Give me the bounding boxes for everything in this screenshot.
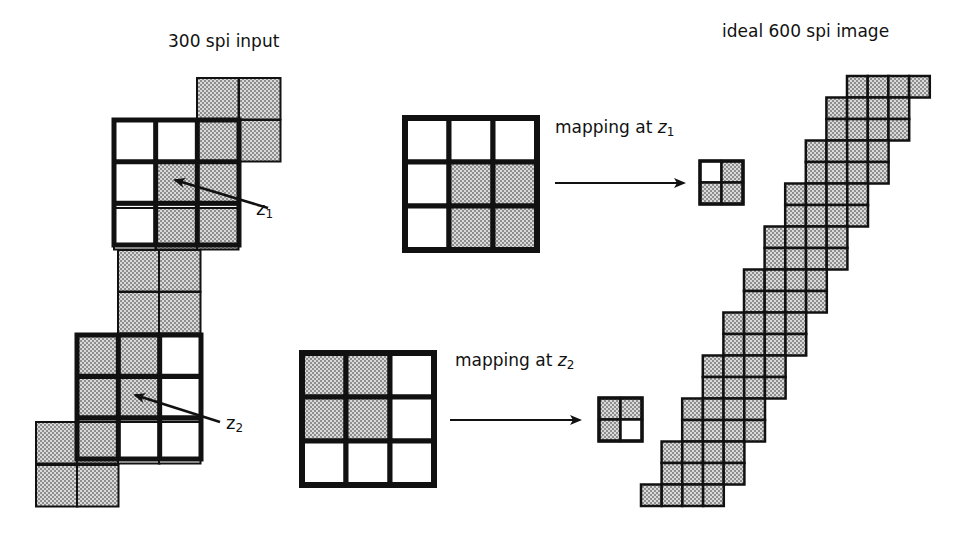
output-pixel: [765, 334, 786, 356]
output-pixel: [703, 399, 724, 421]
output-pixel: [847, 205, 868, 227]
output-pixel: [765, 270, 786, 292]
z-subscript: 1: [667, 125, 675, 139]
output-pixel: [806, 227, 827, 249]
output-pixel: [744, 420, 765, 442]
output-pixel: [703, 420, 724, 442]
output-pixel: [765, 313, 786, 335]
output-pixel: [847, 119, 868, 141]
output-pixel: [662, 463, 683, 485]
output-pixel: [847, 184, 868, 206]
output-pixel: [744, 356, 765, 378]
output-pixel: [806, 270, 827, 292]
output-pixel: [724, 399, 745, 421]
output-pixel: [806, 291, 827, 313]
mapping-z1-label: mapping at z1: [555, 117, 674, 139]
output-pixel: [703, 356, 724, 378]
output-pixel: [765, 356, 786, 378]
output-pixel: [786, 313, 807, 335]
output-title: ideal 600 spi image: [722, 21, 889, 41]
z-subscript: 2: [567, 358, 575, 372]
z-subscript: 2: [235, 421, 243, 435]
pixel-on: [159, 292, 201, 334]
output-pixel: [786, 334, 807, 356]
pixel-off: [159, 335, 201, 377]
output-pixel: [724, 356, 745, 378]
output-pixel: [682, 442, 703, 464]
pixel-on: [159, 250, 201, 292]
pixel-on: [197, 78, 239, 120]
output-pixel: [744, 291, 765, 313]
mapping-z2-text: mapping at: [455, 350, 558, 370]
output-pixel: [662, 485, 683, 507]
output-pixel: [868, 141, 889, 163]
output-pixel: [785, 184, 806, 206]
pixel-on: [36, 422, 78, 464]
z-symbol: z: [658, 117, 667, 137]
output-pixel: [724, 377, 745, 399]
output-pixel: [662, 442, 683, 464]
output-pixel: [744, 270, 765, 292]
output-pixel: [785, 291, 806, 313]
output-pixel: [703, 485, 724, 507]
pixel-on: [77, 378, 119, 420]
output-pixel: [785, 205, 806, 227]
pixel-on: [77, 335, 119, 377]
output-pixel: [785, 227, 806, 249]
output-pixel: [889, 98, 910, 120]
output-pixel: [826, 98, 847, 120]
output-pixel: [806, 141, 827, 163]
output-pixel: [806, 162, 827, 184]
pixel-on: [118, 378, 160, 420]
mapping-z2: [302, 353, 642, 485]
pixel-on: [239, 78, 281, 120]
output-pixel: [868, 162, 889, 184]
output-pixel: [806, 184, 827, 206]
pixel-on: [77, 465, 119, 507]
output-pixel: [888, 76, 909, 98]
mapping-z2-label: mapping at z2: [455, 350, 574, 372]
mapping-z1-text: mapping at: [555, 117, 658, 137]
output-pixel: [827, 162, 848, 184]
output-pixel: [806, 248, 827, 270]
output-pixel: [827, 248, 848, 270]
output-pixel: [765, 227, 786, 249]
output-pixel: [723, 313, 744, 335]
output-pixel: [744, 399, 765, 421]
pixel-on: [118, 250, 160, 292]
output-pixel: [889, 119, 910, 141]
output-pixel: [682, 420, 703, 442]
output-pixel: [847, 98, 868, 120]
output-pixel: [868, 119, 889, 141]
output-pixel: [682, 463, 703, 485]
output-pixel: [744, 334, 765, 356]
output-pixel: [785, 270, 806, 292]
z2-label: z2: [226, 412, 243, 435]
output-pixel: [724, 463, 745, 485]
pixel-off: [156, 120, 198, 162]
output-pixel: [682, 399, 703, 421]
pixel-on: [197, 120, 239, 162]
output-pixel: [641, 485, 662, 507]
resolution-enhancement-diagram: [0, 0, 962, 538]
output-pixel: [682, 485, 703, 507]
pixel-on: [118, 292, 160, 334]
pixel-on: [36, 465, 78, 507]
output-pixel: [724, 442, 745, 464]
z-subscript: 1: [265, 207, 273, 221]
output-600spi-staircase: [641, 76, 930, 506]
output-pixel: [724, 420, 745, 442]
output-pixel: [847, 162, 868, 184]
output-pixel: [723, 334, 744, 356]
output-pixel: [827, 141, 848, 163]
pixel-on: [239, 120, 281, 162]
output-pixel: [765, 377, 786, 399]
output-pixel: [826, 119, 847, 141]
mapping-examples: [302, 118, 743, 485]
output-pixel: [827, 205, 848, 227]
pixel-off: [114, 163, 156, 205]
output-pixel: [827, 227, 848, 249]
z1-label: z1: [256, 198, 273, 221]
output-pixel: [703, 377, 724, 399]
pixel-on: [118, 335, 160, 377]
